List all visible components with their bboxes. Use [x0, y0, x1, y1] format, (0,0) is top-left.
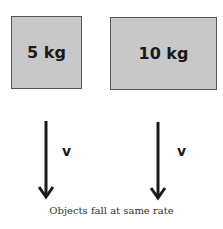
mass-box-10kg: 10 kg	[110, 17, 217, 90]
mass-label: 5 kg	[27, 43, 66, 62]
mass-box-5kg: 5 kg	[11, 16, 82, 89]
diagram-caption: Objects fall at same rate	[0, 205, 223, 216]
velocity-arrow-down-icon	[37, 121, 55, 201]
velocity-label: v	[62, 143, 71, 159]
mass-label: 10 kg	[139, 44, 189, 63]
velocity-arrow-down-icon	[149, 122, 167, 202]
velocity-label: v	[177, 143, 186, 159]
